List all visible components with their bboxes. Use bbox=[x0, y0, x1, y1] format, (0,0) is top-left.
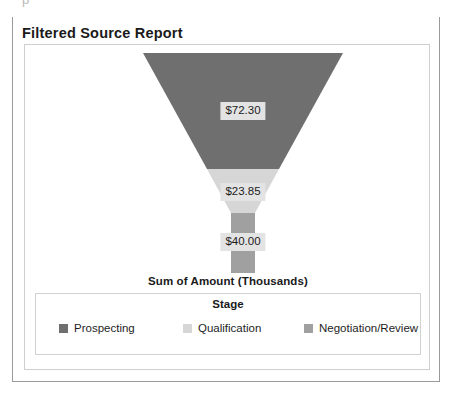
page-title: Filtered Source Report bbox=[22, 25, 183, 41]
report-panel: Filtered Source Report $72.30 $23.85 $40… bbox=[12, 17, 440, 382]
legend-item-prospecting[interactable]: Prospecting bbox=[59, 322, 135, 334]
legend-item-qualification[interactable]: Qualification bbox=[183, 322, 261, 334]
top-edge-artifact: p bbox=[22, 0, 30, 6]
legend-item-label: Qualification bbox=[198, 322, 261, 334]
legend-item-negotiation-review[interactable]: Negotiation/Review bbox=[304, 322, 418, 334]
legend-swatch-icon bbox=[304, 324, 313, 333]
legend-item-label: Negotiation/Review bbox=[319, 322, 418, 334]
funnel-value-label-negotiation-review: $40.00 bbox=[220, 233, 265, 251]
legend-swatch-icon bbox=[183, 324, 192, 333]
legend-item-list: Prospecting Qualification Negotiation/Re… bbox=[36, 322, 420, 342]
legend-item-label: Prospecting bbox=[74, 322, 135, 334]
funnel-value-label-qualification: $23.85 bbox=[220, 183, 265, 201]
funnel-chart[interactable]: $72.30 $23.85 $40.00 bbox=[25, 45, 431, 277]
legend-swatch-icon bbox=[59, 324, 68, 333]
chart-frame: $72.30 $23.85 $40.00 Sum of Amount (Thou… bbox=[24, 44, 430, 370]
legend-title: Stage bbox=[36, 298, 420, 310]
chart-legend: Stage Prospecting Qualification Negotiat… bbox=[35, 293, 421, 355]
funnel-value-label-prospecting: $72.30 bbox=[220, 102, 265, 120]
axis-caption: Sum of Amount (Thousands) bbox=[25, 275, 431, 287]
